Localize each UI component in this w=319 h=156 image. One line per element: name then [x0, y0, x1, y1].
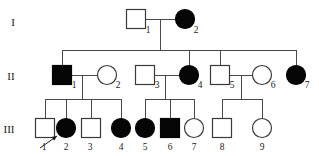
individual-III-8-unaffected-male[interactable]	[213, 119, 232, 138]
id-label-II-1: 1	[72, 80, 77, 90]
id-label-III-5: 5	[143, 142, 148, 152]
id-label-II-2: 2	[116, 80, 121, 90]
individual-III-6-affected-male[interactable]	[161, 119, 180, 138]
individual-III-1-unaffected-male[interactable]	[36, 119, 55, 138]
id-label-II-7: 7	[305, 80, 310, 90]
individual-III-5-affected-female[interactable]	[136, 119, 155, 138]
individual-II-6-unaffected-female[interactable]	[253, 66, 272, 85]
id-label-III-6: 6	[168, 142, 173, 152]
id-label-I-1: 1	[146, 25, 151, 35]
id-label-III-7: 7	[192, 142, 197, 152]
id-label-I-2: 2	[194, 25, 199, 35]
individual-III-7-unaffected-female[interactable]	[185, 119, 204, 138]
individual-II-4-affected-female[interactable]	[180, 66, 199, 85]
id-label-II-6: 6	[271, 80, 276, 90]
individual-II-1-affected-male[interactable]	[53, 66, 72, 85]
individual-III-4-affected-female[interactable]	[112, 119, 131, 138]
id-label-III-2: 2	[64, 142, 69, 152]
generation-labels-layer: IIIIII	[4, 16, 16, 135]
id-label-III-3: 3	[88, 142, 93, 152]
individual-III-3-unaffected-male[interactable]	[82, 119, 101, 138]
individual-III-2-affected-female[interactable]	[57, 119, 76, 138]
pedigree-chart: 121234567123456789 IIIIII	[0, 0, 319, 156]
generation-label-II: II	[7, 70, 15, 82]
id-label-III-8: 8	[220, 142, 225, 152]
id-label-II-4: 4	[198, 80, 203, 90]
individual-II-7-affected-female[interactable]	[287, 66, 306, 85]
individual-I-2-affected-female[interactable]	[176, 10, 195, 29]
individual-symbols-layer	[36, 10, 306, 138]
individual-II-2-unaffected-female[interactable]	[98, 66, 117, 85]
individual-III-9-unaffected-female[interactable]	[253, 119, 272, 138]
individual-I-1-unaffected-male[interactable]	[127, 10, 146, 29]
individual-II-5-unaffected-male[interactable]	[211, 66, 230, 85]
id-label-III-4: 4	[119, 142, 124, 152]
id-label-III-9: 9	[260, 142, 265, 152]
pedigree-diagram-canvas: 121234567123456789 IIIIII	[0, 0, 319, 156]
id-label-II-3: 3	[155, 80, 160, 90]
individual-II-3-unaffected-male[interactable]	[136, 66, 155, 85]
id-label-II-5: 5	[230, 80, 235, 90]
generation-label-I: I	[11, 16, 15, 28]
generation-label-III: III	[4, 123, 15, 135]
